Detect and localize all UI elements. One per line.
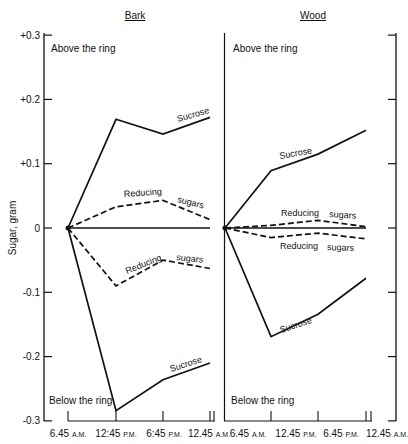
below-ring-label-wood: Below the ring bbox=[231, 395, 294, 406]
y-tick-label: +0.1 bbox=[20, 158, 40, 169]
below-ring-label-bark: Below the ring bbox=[49, 395, 112, 406]
origin-point bbox=[223, 226, 228, 231]
x-tick-label: 6.45 A.M. bbox=[50, 428, 87, 439]
origin-point bbox=[66, 226, 71, 231]
above-ring-label-wood: Above the ring bbox=[233, 43, 298, 54]
y-tick-label: +0.3 bbox=[20, 30, 40, 41]
series-label: sugars bbox=[327, 242, 355, 253]
series-label: Reducing bbox=[281, 208, 319, 218]
x-tick-label: 6.45 A.M. bbox=[230, 428, 267, 439]
y-tick-label: -0.2 bbox=[23, 351, 41, 362]
x-tick-label: 12.45 A.M. bbox=[366, 428, 408, 439]
x-tick-label: 6.45 P.M. bbox=[323, 428, 359, 439]
y-tick-label: +0.2 bbox=[20, 94, 40, 105]
y-tick-label: 0 bbox=[34, 223, 40, 234]
x-tick-label: 6:45 P.M. bbox=[146, 428, 182, 439]
above-ring-label-bark: Above the ring bbox=[51, 43, 116, 54]
y-axis-title: Sugar, gram bbox=[7, 201, 18, 255]
panel-title-bark: Bark bbox=[125, 10, 147, 21]
x-tick-label: 12:45 P.M. bbox=[95, 428, 136, 439]
panel-title-wood: Wood bbox=[300, 10, 326, 21]
right-axis bbox=[388, 33, 396, 421]
sugar-chart: +0.3+0.2+0.10-0.1-0.2-0.3 Sugar, gram Ba… bbox=[0, 0, 408, 444]
y-axis: +0.3+0.2+0.10-0.1-0.2-0.3 Sugar, gram bbox=[7, 30, 52, 427]
x-tick-label: 12.45 P.M. bbox=[275, 428, 316, 439]
series-label: Sucrose bbox=[176, 105, 211, 124]
x-tick-label: 12.45 A.M. bbox=[188, 428, 230, 439]
panel-wood: Wood Above the ring Below the ring 6.45 … bbox=[223, 10, 408, 439]
y-tick-label: -0.1 bbox=[23, 287, 41, 298]
series-label: Reducing bbox=[123, 186, 162, 199]
series-label: Reducing bbox=[280, 241, 318, 251]
series-label: sugars bbox=[329, 209, 357, 221]
panel-bark: Bark Above the ring Below the ring 6.45 … bbox=[49, 10, 230, 439]
series-line bbox=[225, 228, 366, 239]
y-tick-label: -0.3 bbox=[23, 415, 41, 426]
series-label: Sucrose bbox=[279, 315, 314, 335]
series-line bbox=[225, 220, 366, 228]
